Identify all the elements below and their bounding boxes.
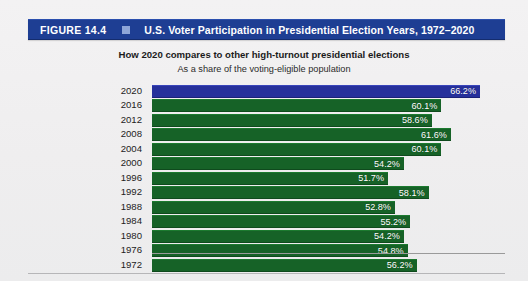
bar-year-label: 1988 xyxy=(0,201,148,214)
bar: 60.1% xyxy=(152,143,441,156)
bar-year-label: 2012 xyxy=(0,114,148,127)
bar-row: 198054.2% xyxy=(0,230,528,243)
bar-row: 197654.8% xyxy=(0,244,528,257)
bar: 56.2% xyxy=(152,259,417,272)
bar: 54.8% xyxy=(152,244,408,257)
bar-row: 200460.1% xyxy=(0,143,528,156)
bar-row: 199258.1% xyxy=(0,186,528,199)
figure-number: FIGURE 14.4 xyxy=(40,24,106,36)
bar: 60.1% xyxy=(152,99,441,112)
bar-value-label: 56.2% xyxy=(387,260,417,270)
chart-subtitle-secondary: As a share of the voting-eligible popula… xyxy=(0,64,528,74)
bar-track: 52.8% xyxy=(152,201,505,214)
bar-chart-plot-area: 202066.2%201660.1%201258.6%200861.6%2004… xyxy=(0,85,528,253)
bar-year-label: 2000 xyxy=(0,157,148,170)
bar: 61.6% xyxy=(152,128,451,141)
bar-row: 201660.1% xyxy=(0,99,528,112)
bar-year-label: 1984 xyxy=(0,215,148,228)
bar-value-label: 58.6% xyxy=(402,115,432,125)
bar: 55.2% xyxy=(152,215,410,228)
bar-year-label: 1992 xyxy=(0,186,148,199)
square-bullet-icon xyxy=(122,26,130,34)
bar: 51.7% xyxy=(152,172,388,185)
bar-value-label: 60.1% xyxy=(411,144,441,154)
bar-row: 201258.6% xyxy=(0,114,528,127)
bar: 58.1% xyxy=(152,186,429,199)
bar-track: 60.1% xyxy=(152,143,505,156)
bar-value-label: 66.2% xyxy=(450,86,480,96)
bar-year-label: 2016 xyxy=(0,99,148,112)
bar-year-label: 1980 xyxy=(0,230,148,243)
bar-year-label: 2020 xyxy=(0,85,148,98)
bar-value-label: 54.2% xyxy=(374,231,404,241)
bar-track: 56.2% xyxy=(152,259,505,272)
bar-row: 198455.2% xyxy=(0,215,528,228)
bar-row: 198852.8% xyxy=(0,201,528,214)
figure-footer-rule xyxy=(28,273,505,274)
bar-value-label: 54.8% xyxy=(378,246,408,256)
bar-track: 55.2% xyxy=(152,215,505,228)
bar-value-label: 55.2% xyxy=(380,217,410,227)
bar-value-label: 61.6% xyxy=(421,130,451,140)
bar-highlighted: 66.2% xyxy=(152,85,480,98)
bar: 54.2% xyxy=(152,157,404,170)
bar-value-label: 58.1% xyxy=(399,188,429,198)
bar-year-label: 2004 xyxy=(0,143,148,156)
bar-track: 54.2% xyxy=(152,230,505,243)
bar-value-label: 54.2% xyxy=(374,159,404,169)
figure-container: FIGURE 14.4 U.S. Voter Participation in … xyxy=(0,0,528,281)
bar-year-label: 1996 xyxy=(0,172,148,185)
bar-track: 61.6% xyxy=(152,128,505,141)
x-axis-line xyxy=(152,253,505,254)
chart-subtitle-primary: How 2020 compares to other high-turnout … xyxy=(0,49,528,60)
bar-row: 200054.2% xyxy=(0,157,528,170)
bar-track: 58.6% xyxy=(152,114,505,127)
bar-track: 54.8% xyxy=(152,244,505,257)
bar-track: 58.1% xyxy=(152,186,505,199)
bar-row: 199651.7% xyxy=(0,172,528,185)
bar-track: 51.7% xyxy=(152,172,505,185)
bar-row: 202066.2% xyxy=(0,85,528,98)
bar-track: 66.2% xyxy=(152,85,505,98)
bar-row: 200861.6% xyxy=(0,128,528,141)
figure-title: U.S. Voter Participation in Presidential… xyxy=(144,24,474,36)
bar-value-label: 51.7% xyxy=(358,173,388,183)
bar-value-label: 52.8% xyxy=(365,202,395,212)
bar: 52.8% xyxy=(152,201,395,214)
bar-year-label: 2008 xyxy=(0,128,148,141)
bar: 54.2% xyxy=(152,230,404,243)
bar: 58.6% xyxy=(152,114,432,127)
figure-header-bar: FIGURE 14.4 U.S. Voter Participation in … xyxy=(28,19,505,40)
bar-value-label: 60.1% xyxy=(411,101,441,111)
bar-track: 60.1% xyxy=(152,99,505,112)
bar-row: 197256.2% xyxy=(0,259,528,272)
bar-year-label: 1972 xyxy=(0,259,148,272)
bar-year-label: 1976 xyxy=(0,244,148,257)
bar-track: 54.2% xyxy=(152,157,505,170)
